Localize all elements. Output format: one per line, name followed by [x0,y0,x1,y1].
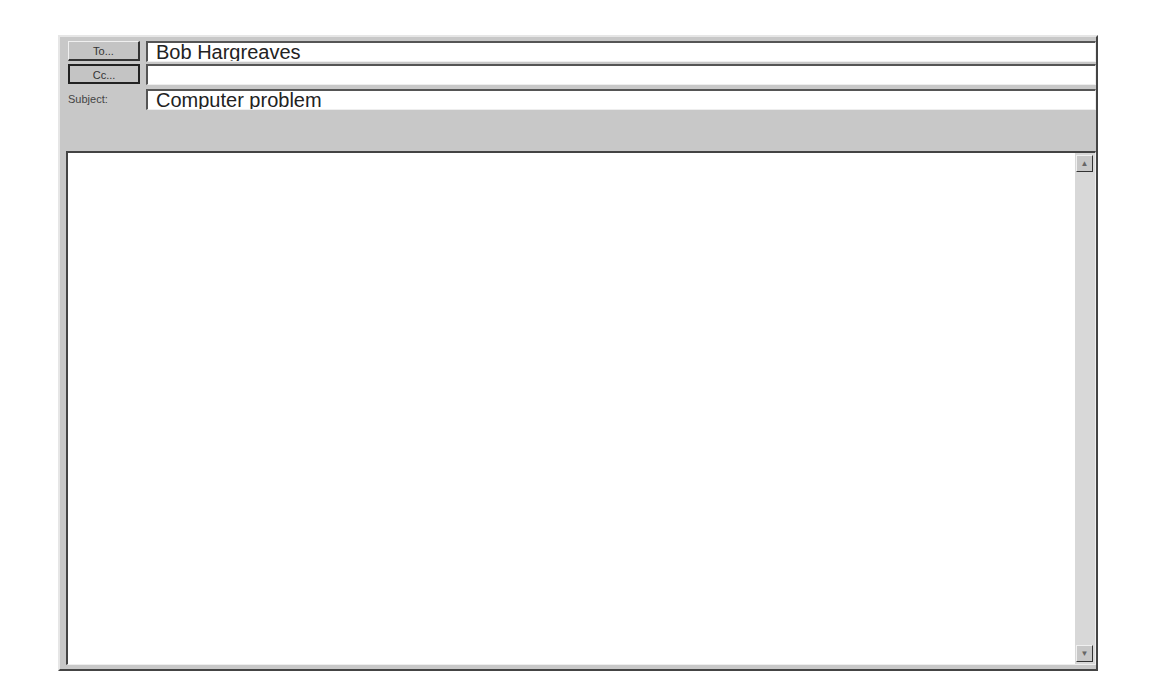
to-field[interactable]: Bob Hargreaves [146,41,1096,62]
scroll-down-arrow-icon[interactable]: ▼ [1076,645,1093,662]
subject-field[interactable]: Computer problem [146,89,1096,110]
to-button[interactable]: To... [68,41,140,61]
scroll-up-arrow-icon[interactable]: ▲ [1076,155,1093,172]
message-compose-panel: To... Bob Hargreaves Cc... Subject: Comp… [58,35,1098,671]
cc-button[interactable]: Cc... [68,64,140,84]
subject-label: Subject: [68,89,140,109]
vertical-scrollbar[interactable]: ▲ ▼ [1075,153,1095,664]
cc-field[interactable] [146,64,1096,85]
message-body[interactable]: ▲ ▼ [66,151,1096,665]
